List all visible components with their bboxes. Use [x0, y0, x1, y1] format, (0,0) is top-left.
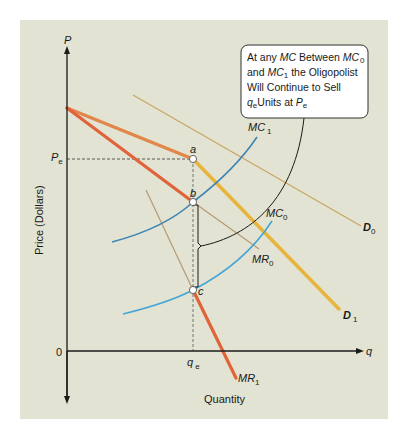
y-axis-title: Price (Dollars): [33, 185, 45, 255]
callout-line-3: Will Continue to Sell: [247, 81, 341, 93]
callout-line-1: At any MC Between MC0: [247, 51, 365, 65]
y-axis-label: P: [64, 34, 72, 46]
x-axis-title: Quantity: [204, 393, 245, 405]
callout-line-2: and MC1 the Oligopolist: [247, 66, 358, 80]
point-c: [189, 286, 196, 293]
kinked-demand-diagram: a b c P q 0 Quantity Price (Dollars) Pe …: [0, 0, 404, 441]
origin-label: 0: [56, 346, 62, 358]
point-c-label: c: [198, 285, 204, 297]
x-axis-label: q: [366, 345, 373, 357]
point-b: [189, 198, 196, 205]
point-b-label: b: [190, 187, 196, 199]
point-a-label: a: [190, 143, 196, 155]
point-a: [189, 155, 196, 162]
